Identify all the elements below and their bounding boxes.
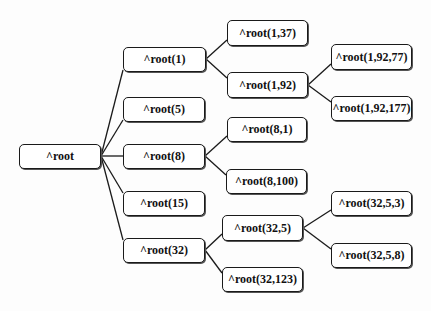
node-label: ^root(1,92,77) [335,50,407,65]
node-label: ^root(1,92,177) [332,101,410,116]
edge-n32_5-to-n32_5_3 [303,210,331,228]
tree-node-n8: ^root(8) [123,144,205,169]
edge-root-to-n15 [101,156,123,193]
node-label: ^root(32) [140,243,188,258]
tree-node-n32_5_3: ^root(32,5,3) [331,191,412,216]
tree-node-n1_92_77: ^root(1,92,77) [331,44,412,70]
tree-node-n1_37: ^root(1,37) [227,20,308,46]
edge-root-to-n5 [101,120,123,156]
tree-node-n1: ^root(1) [123,47,206,72]
tree-node-root: ^root [19,144,101,169]
tree-node-n32: ^root(32) [123,238,205,263]
edge-root-to-n1 [101,70,123,156]
tree-node-n32_123: ^root(32,123) [222,267,303,292]
node-label: ^root(8,1) [241,122,292,137]
node-label: ^root(1,37) [239,26,296,41]
tree-node-n32_5: ^root(32,5) [222,215,303,241]
edge-root-to-n32 [101,156,123,240]
node-label: ^root(1,92) [239,78,296,93]
edge-n1_92-to-n1_92_177 [308,85,331,102]
node-label: ^root(8) [143,149,185,164]
edge-n1-to-n1_92 [206,59,227,78]
edge-n1-to-n1_37 [206,40,227,59]
tree-node-n15: ^root(15) [123,191,205,216]
node-label: ^root(15) [140,196,188,211]
tree-diagram: ^root^root(1)^root(5)^root(8)^root(15)^r… [0,0,431,311]
node-label: ^root(5) [143,102,185,117]
node-label: ^root(32,5,3) [338,196,404,211]
node-label: ^root(8,100) [235,174,298,189]
edge-n32_5-to-n32_5_8 [303,228,331,249]
node-label: ^root(32,5) [234,221,291,236]
tree-node-n32_5_8: ^root(32,5,8) [331,243,412,268]
tree-node-n5: ^root(5) [123,97,205,122]
tree-node-n1_92: ^root(1,92) [227,72,308,98]
node-label: ^root [46,149,74,164]
edge-n8-to-n8_100 [205,156,226,175]
edge-n8-to-n8_1 [205,136,227,156]
tree-node-n1_92_177: ^root(1,92,177) [331,96,412,121]
tree-node-n8_1: ^root(8,1) [227,117,307,142]
node-label: ^root(32,123) [228,272,297,287]
node-label: ^root(1) [143,52,185,67]
tree-node-n8_100: ^root(8,100) [226,169,307,194]
node-label: ^root(32,5,8) [338,248,404,263]
edge-n32-to-n32_5 [205,234,222,250]
edge-n32-to-n32_123 [205,250,222,273]
edge-n1_92-to-n1_92_77 [308,64,331,85]
